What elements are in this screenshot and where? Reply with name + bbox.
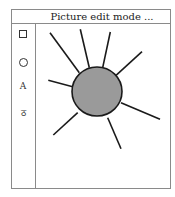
ray-line[interactable]: [116, 52, 142, 76]
sun-body: [72, 67, 122, 116]
picture-editor-window: Picture edit mode ... A ठ: [11, 9, 171, 189]
drawing-svg: [1, 1, 175, 197]
ray-line[interactable]: [121, 103, 160, 120]
ray-line[interactable]: [53, 113, 77, 135]
ray-line[interactable]: [80, 29, 89, 67]
ray-line[interactable]: [108, 118, 121, 149]
drawing-canvas[interactable]: [36, 24, 170, 188]
sun-circle[interactable]: [72, 67, 122, 116]
ray-line[interactable]: [103, 32, 111, 68]
ray-line[interactable]: [50, 33, 79, 73]
ray-line[interactable]: [48, 80, 72, 86]
